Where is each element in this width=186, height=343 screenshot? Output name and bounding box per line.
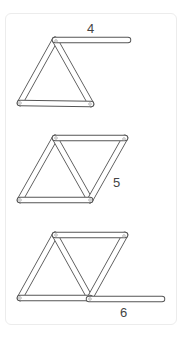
joint-icon — [19, 199, 22, 202]
step-3-label: 6 — [120, 305, 127, 320]
figure-step-2: 5 — [19, 137, 126, 202]
step-1-label: 4 — [87, 21, 94, 36]
joint-icon — [55, 40, 58, 43]
joint-icon — [123, 235, 126, 238]
joint-icon — [89, 199, 92, 202]
joint-icon — [55, 234, 58, 237]
joint-icon — [89, 298, 92, 301]
figure-step-3: 6 — [19, 234, 162, 320]
step-2-label: 5 — [113, 175, 120, 190]
joint-icon — [89, 103, 92, 106]
joint-icon — [55, 137, 58, 140]
joint-icon — [123, 138, 126, 141]
stick-pattern-diagram: 4 5 6 — [0, 0, 186, 343]
joint-icon — [19, 102, 22, 105]
figure-step-1: 4 — [19, 21, 128, 105]
joint-icon — [19, 297, 22, 300]
